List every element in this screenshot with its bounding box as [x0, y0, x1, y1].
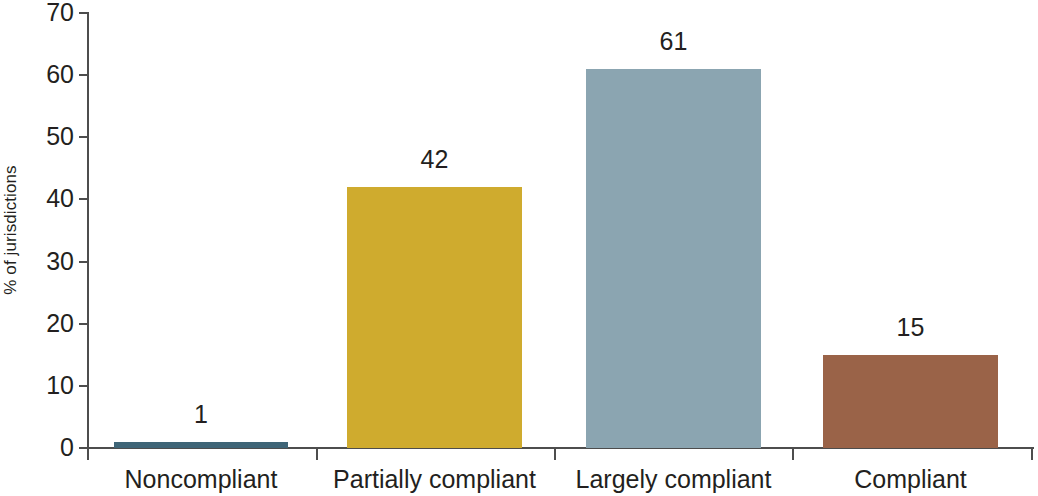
- bar-partially-compliant[interactable]: [347, 187, 522, 448]
- x-axis-label-compliant: Compliant: [783, 464, 1038, 494]
- bar-noncompliant[interactable]: [114, 442, 288, 448]
- x-axis-tick: [316, 449, 318, 460]
- x-axis-tick: [554, 449, 556, 460]
- bar-compliant[interactable]: [823, 355, 998, 448]
- bar-largely-compliant[interactable]: [586, 69, 761, 448]
- bar-value-label: 42: [347, 147, 522, 172]
- bar-value-label: 1: [114, 402, 288, 427]
- x-axis-label-noncompliant: Noncompliant: [74, 464, 328, 494]
- x-axis-tick: [1031, 449, 1033, 460]
- x-axis-tick: [792, 449, 794, 460]
- bar-chart: % of jurisdictions 010203040506070 14261…: [0, 0, 1038, 496]
- bar-value-label: 61: [586, 29, 761, 54]
- x-axis-tick: [87, 449, 89, 460]
- bars-layer: 1426115: [0, 0, 1038, 448]
- x-axis-label-partially-compliant: Partially compliant: [307, 464, 562, 494]
- x-axis-label-largely-compliant: Largely compliant: [546, 464, 801, 494]
- bar-value-label: 15: [823, 315, 998, 340]
